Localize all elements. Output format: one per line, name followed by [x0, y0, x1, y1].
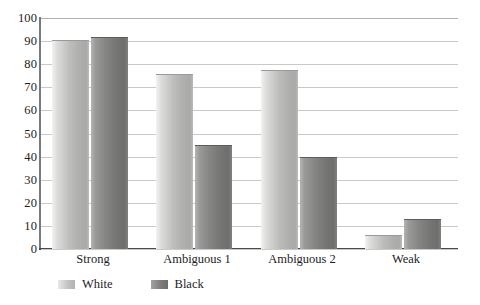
chart-legend: White Black: [58, 278, 204, 291]
legend-label-white: White: [82, 278, 113, 291]
y-tick-10: 10: [3, 220, 37, 233]
y-tick-100: 100: [3, 12, 37, 25]
y-tick-0: 0: [3, 243, 37, 256]
black-series-swatch-icon: [151, 280, 168, 289]
y-tick-80: 80: [3, 58, 37, 71]
gridline-100: [41, 18, 458, 19]
bar-white-ambiguous-2: [261, 70, 298, 249]
category-label-ambiguous-1: Ambiguous 1: [145, 253, 249, 266]
x-axis-category-labels: StrongAmbiguous 1Ambiguous 2Weak: [41, 253, 458, 273]
y-tick-90: 90: [3, 35, 37, 48]
bar-black-ambiguous-1: [195, 145, 232, 249]
legend-item-white: White: [58, 278, 113, 291]
plot-area: [41, 18, 458, 249]
y-axis-tick-labels: 100 90 80 70 60 50 40 30 20 10 0: [0, 0, 37, 305]
gridline-0: [41, 249, 458, 250]
y-tick-60: 60: [3, 104, 37, 117]
bar-black-weak: [404, 219, 441, 249]
y-tick-70: 70: [3, 81, 37, 94]
bar-black-ambiguous-2: [300, 157, 337, 249]
y-tick-40: 40: [3, 151, 37, 164]
y-tick-20: 20: [3, 197, 37, 210]
category-label-strong: Strong: [41, 253, 145, 266]
y-tick-30: 30: [3, 174, 37, 187]
bar-white-ambiguous-1: [156, 74, 193, 249]
legend-label-black: Black: [175, 278, 204, 291]
category-label-weak: Weak: [354, 253, 458, 266]
bar-white-strong: [52, 40, 89, 249]
y-tick-50: 50: [3, 128, 37, 141]
legend-item-black: Black: [151, 278, 204, 291]
bar-chart-figure: 100 90 80 70 60 50 40 30 20 10 0 StrongA…: [0, 0, 480, 305]
bar-black-strong: [91, 37, 128, 249]
bar-white-weak: [365, 235, 402, 249]
white-series-swatch-icon: [58, 280, 75, 289]
category-label-ambiguous-2: Ambiguous 2: [250, 253, 354, 266]
